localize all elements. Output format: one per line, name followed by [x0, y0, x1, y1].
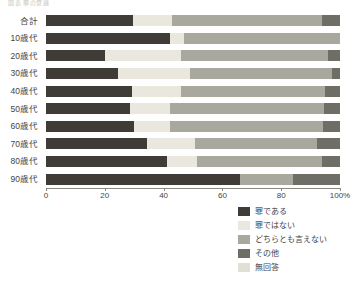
- legend-item[interactable]: その他: [238, 248, 327, 259]
- legend-label: どちらとも言えない: [255, 236, 327, 244]
- y-axis-label: 80歳代: [0, 153, 42, 171]
- bar-segment: [293, 174, 340, 185]
- bar-segment: [170, 33, 184, 44]
- y-axis-label: 90歳代: [0, 170, 42, 188]
- y-axis-label: 20歳代: [0, 47, 42, 65]
- bar-segment: [195, 138, 317, 149]
- y-axis-labels: 合計10歳代20歳代30歳代40歳代50歳代60歳代70歳代80歳代90歳代: [0, 12, 42, 188]
- bar-segment: [181, 86, 325, 97]
- bar-segment: [240, 174, 293, 185]
- bar-row: [46, 153, 340, 171]
- bar-segment: [323, 121, 340, 132]
- bar-segment: [325, 86, 340, 97]
- bar-rows: [46, 12, 340, 188]
- legend-label: 罪ではない: [255, 222, 295, 230]
- bar-segment: [132, 86, 181, 97]
- bar-segment: [170, 103, 324, 114]
- y-axis-label: 40歳代: [0, 82, 42, 100]
- legend-item[interactable]: どちらとも言えない: [238, 234, 327, 245]
- y-axis-label: 10歳代: [0, 30, 42, 48]
- legend-swatch: [238, 221, 250, 230]
- legend-swatch: [238, 249, 250, 258]
- x-axis-tick-label: 100%: [330, 192, 350, 200]
- bar-row: [46, 82, 340, 100]
- bar-row: [46, 30, 340, 48]
- bar-segment: [46, 15, 133, 26]
- bar-segment: [118, 68, 190, 79]
- stacked-bar: [46, 174, 340, 185]
- stacked-bar: [46, 121, 340, 132]
- legend-label: その他: [255, 250, 279, 258]
- legend-swatch: [238, 263, 250, 272]
- bar-segment: [46, 68, 118, 79]
- bar-row: [46, 118, 340, 136]
- legend-label: 罪である: [255, 208, 287, 216]
- bar-row: [46, 170, 340, 188]
- x-axis-tick-label: 0: [44, 192, 48, 200]
- bar-segment: [181, 50, 328, 61]
- x-axis-tick-label: 40: [159, 192, 168, 200]
- bar-segment: [46, 138, 147, 149]
- bar-segment: [46, 156, 167, 167]
- bar-segment: [130, 103, 170, 114]
- bar-segment: [317, 138, 340, 149]
- plot-area: [46, 12, 340, 188]
- legend-item[interactable]: 罪ではない: [238, 220, 327, 231]
- bar-segment: [324, 103, 340, 114]
- y-axis-label: 合計: [0, 12, 42, 30]
- y-axis-label: 50歳代: [0, 100, 42, 118]
- bar-segment: [46, 33, 170, 44]
- legend-label: 無回答: [255, 264, 279, 272]
- bar-segment: [328, 50, 340, 61]
- bar-segment: [322, 15, 340, 26]
- bar-row: [46, 100, 340, 118]
- legend: 罪である罪ではないどちらとも言えないその他無回答: [238, 206, 327, 273]
- bar-segment: [134, 121, 170, 132]
- bar-segment: [332, 68, 340, 79]
- stacked-bar: [46, 50, 340, 61]
- legend-swatch: [238, 207, 250, 216]
- bar-segment: [133, 15, 172, 26]
- legend-item[interactable]: 罪である: [238, 206, 327, 217]
- bar-segment: [170, 121, 323, 132]
- stacked-bar-chart: 図表 罪の意識 合計10歳代20歳代30歳代40歳代50歳代60歳代70歳代80…: [0, 0, 355, 283]
- bar-row: [46, 12, 340, 30]
- legend-swatch: [238, 235, 250, 244]
- bar-segment: [172, 15, 322, 26]
- bar-segment: [46, 103, 130, 114]
- x-axis-tick-label: 80: [277, 192, 286, 200]
- bar-row: [46, 65, 340, 83]
- bar-segment: [46, 174, 240, 185]
- bar-row: [46, 135, 340, 153]
- bar-segment: [190, 68, 332, 79]
- bar-segment: [184, 33, 340, 44]
- stacked-bar: [46, 68, 340, 79]
- bar-segment: [197, 156, 321, 167]
- bar-segment: [147, 138, 195, 149]
- bar-segment: [322, 156, 340, 167]
- bar-segment: [167, 156, 197, 167]
- stacked-bar: [46, 86, 340, 97]
- stacked-bar: [46, 103, 340, 114]
- y-axis-label: 70歳代: [0, 135, 42, 153]
- legend-item[interactable]: 無回答: [238, 262, 327, 273]
- stacked-bar: [46, 156, 340, 167]
- y-axis-label: 60歳代: [0, 118, 42, 136]
- x-axis-line: [46, 188, 340, 189]
- x-axis-tick-label: 60: [218, 192, 227, 200]
- bar-segment: [46, 50, 105, 61]
- y-axis-label: 30歳代: [0, 65, 42, 83]
- stacked-bar: [46, 15, 340, 26]
- x-axis-tick-label: 20: [100, 192, 109, 200]
- bar-segment: [46, 121, 134, 132]
- bar-segment: [105, 50, 181, 61]
- bar-row: [46, 47, 340, 65]
- stacked-bar: [46, 33, 340, 44]
- bar-segment: [46, 86, 132, 97]
- cutoff-header-text: 図表 罪の意識: [8, 0, 158, 7]
- stacked-bar: [46, 138, 340, 149]
